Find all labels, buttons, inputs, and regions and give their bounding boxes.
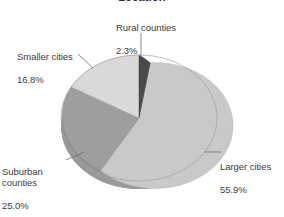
slice-label-larger-cities-value: 55.9% xyxy=(220,184,271,195)
pie-chart-figure: Location Rural countie xyxy=(0,0,284,217)
slice-label-suburban-counties-name: Suburban counties xyxy=(2,166,43,188)
slice-label-rural-counties: Rural counties 2.3% xyxy=(116,11,176,67)
slice-label-larger-cities: Larger cities 55.9% xyxy=(220,150,271,206)
leader-line-smaller xyxy=(78,54,93,68)
slice-label-smaller-cities-value: 16.8% xyxy=(17,74,73,85)
slice-label-rural-counties-name: Rural counties xyxy=(116,22,176,33)
slice-label-smaller-cities-name: Smaller cities xyxy=(17,51,73,62)
slice-label-smaller-cities: Smaller cities 16.8% xyxy=(17,40,73,96)
slice-label-suburban-counties-value: 25.0% xyxy=(2,200,43,211)
slice-label-larger-cities-name: Larger cities xyxy=(220,161,271,172)
slice-label-suburban-counties: Suburban counties 25.0% xyxy=(2,155,43,217)
slice-label-rural-counties-value: 2.3% xyxy=(116,45,176,56)
